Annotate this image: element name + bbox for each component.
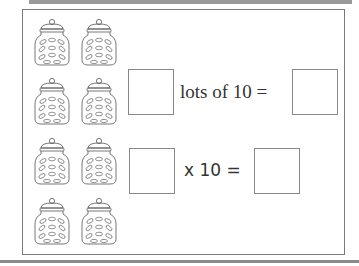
times-10-label: x 10 = [184,160,241,180]
cookie-jar-icon [32,18,72,66]
cookie-jar-icon [32,137,72,185]
cookie-jar-icon [79,197,119,245]
cookie-jar-icon [79,77,119,125]
answer-box-total-1[interactable] [292,69,338,115]
cookie-jar-icon [32,77,72,125]
answer-box-lots[interactable] [128,69,174,115]
lots-of-10-label: lots of 10 = [180,81,267,103]
cookie-jar-icon [79,18,119,66]
footer-rule [0,260,359,263]
cookie-jar-icon [32,197,72,245]
answer-box-multiplier[interactable] [129,148,175,194]
answer-box-total-2[interactable] [254,148,300,194]
header-bar [29,0,352,4]
cookie-jar-icon [79,137,119,185]
